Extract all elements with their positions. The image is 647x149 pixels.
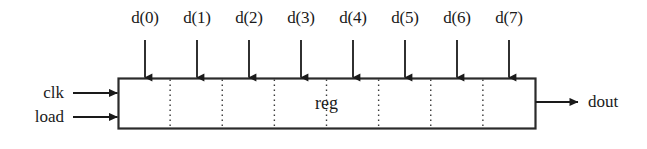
control-input-arrows bbox=[73, 93, 118, 117]
diagram-canvas bbox=[0, 0, 647, 149]
data-input-label-6: d(6) bbox=[443, 8, 471, 28]
data-input-label-7: d(7) bbox=[495, 8, 523, 28]
data-input-arrows bbox=[145, 40, 509, 78]
register-label: reg bbox=[315, 93, 338, 114]
data-input-label-5: d(5) bbox=[391, 8, 419, 28]
data-input-label-2: d(2) bbox=[235, 8, 263, 28]
data-input-label-4: d(4) bbox=[339, 8, 367, 28]
register-block-diagram: reg d(0)d(1)d(2)d(3)d(4)d(5)d(6)d(7) clk… bbox=[0, 0, 647, 149]
control-input-label-1: load bbox=[35, 107, 64, 127]
data-input-label-3: d(3) bbox=[287, 8, 315, 28]
data-input-label-1: d(1) bbox=[183, 8, 211, 28]
control-input-label-0: clk bbox=[43, 83, 64, 103]
data-input-label-0: d(0) bbox=[131, 8, 159, 28]
output-label-0: dout bbox=[588, 92, 618, 112]
